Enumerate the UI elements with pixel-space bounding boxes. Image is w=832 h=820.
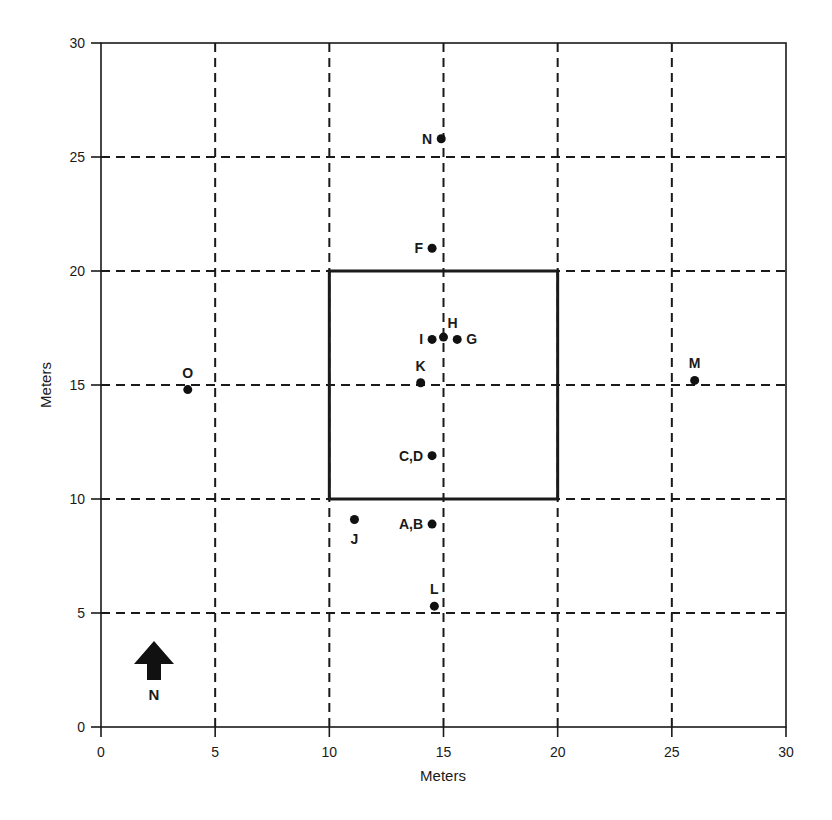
data-point: I — [419, 331, 436, 347]
point-marker — [183, 385, 192, 394]
point-marker — [350, 515, 359, 524]
point-marker — [690, 376, 699, 385]
point-marker — [428, 335, 437, 344]
y-tick-label: 5 — [77, 605, 85, 621]
y-tick-label: 10 — [69, 491, 85, 507]
point-label: M — [689, 355, 701, 371]
point-marker — [428, 520, 437, 529]
point-marker — [437, 134, 446, 143]
point-label: F — [415, 240, 424, 256]
data-point: L — [430, 581, 439, 611]
point-marker — [430, 602, 439, 611]
point-label: N — [422, 131, 432, 147]
north-arrow-icon — [134, 641, 174, 680]
point-marker — [428, 244, 437, 253]
y-tick-label: 20 — [69, 263, 85, 279]
data-point: O — [182, 365, 193, 395]
x-tick-labels: 051015202530 — [97, 744, 794, 760]
point-label: K — [416, 358, 426, 374]
point-marker — [428, 451, 437, 460]
data-point: A,B — [399, 516, 437, 532]
data-point: F — [415, 240, 437, 256]
data-point: G — [453, 331, 478, 347]
point-marker — [416, 378, 425, 387]
y-axis-title: Meters — [37, 362, 54, 408]
data-point: N — [422, 131, 446, 147]
data-point: J — [350, 515, 359, 547]
point-label: L — [430, 581, 439, 597]
plot-frame — [101, 43, 786, 727]
site-map-chart: 051015202530 051015202530 Meters Meters … — [0, 0, 832, 820]
data-points: NFHIGKC,DA,BJLOM — [182, 131, 700, 611]
y-tick-label: 15 — [69, 377, 85, 393]
point-label: G — [466, 331, 477, 347]
x-tick-label: 30 — [778, 744, 794, 760]
x-tick-label: 25 — [664, 744, 680, 760]
y-tick-label: 30 — [69, 35, 85, 51]
point-label: C,D — [399, 448, 423, 464]
plot-border — [101, 43, 786, 727]
x-axis-title: Meters — [420, 767, 466, 784]
x-tick-label: 0 — [97, 744, 105, 760]
axis-ticks — [91, 43, 786, 737]
data-point: C,D — [399, 448, 437, 464]
y-tick-labels: 051015202530 — [69, 35, 85, 735]
point-label: J — [351, 531, 359, 547]
dashed-grid — [101, 43, 786, 727]
x-tick-label: 5 — [211, 744, 219, 760]
y-tick-label: 25 — [69, 149, 85, 165]
data-point: M — [689, 355, 701, 385]
y-tick-label: 0 — [77, 719, 85, 735]
point-label: A,B — [399, 516, 423, 532]
north-arrow: N — [134, 641, 174, 703]
point-marker — [453, 335, 462, 344]
x-tick-label: 20 — [550, 744, 566, 760]
point-label: H — [447, 315, 457, 331]
x-tick-label: 10 — [322, 744, 338, 760]
north-label: N — [149, 686, 160, 703]
point-label: O — [182, 365, 193, 381]
data-point: K — [416, 358, 426, 388]
point-marker — [439, 333, 448, 342]
x-tick-label: 15 — [436, 744, 452, 760]
point-label: I — [419, 331, 423, 347]
